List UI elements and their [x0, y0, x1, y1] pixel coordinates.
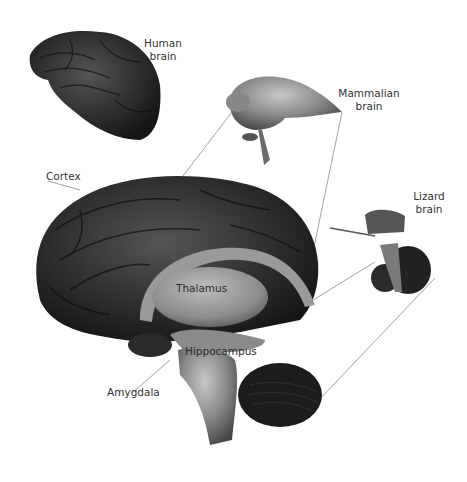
label-lizard-brain-line2: brain — [404, 203, 454, 216]
label-amygdala: Amygdala — [107, 386, 160, 399]
label-thalamus: Thalamus — [176, 282, 227, 295]
label-human-brain-line2: brain — [135, 50, 191, 63]
label-mammalian-brain-line1: Mammalian — [334, 87, 404, 100]
label-mammalian-brain-line2: brain — [334, 100, 404, 113]
label-lizard-brain-line1: Lizard — [404, 190, 454, 203]
label-hippocampus: Hippocampus — [185, 345, 257, 358]
large-brain-sagittal — [36, 176, 322, 445]
label-human-brain: Human brain — [135, 37, 191, 63]
label-human-brain-line1: Human — [135, 37, 191, 50]
label-lizard-brain: Lizard brain — [404, 190, 454, 216]
mammalian-brain — [226, 76, 342, 165]
diagram-canvas — [0, 0, 467, 482]
label-cortex: Cortex — [46, 170, 81, 183]
lizard-brain — [330, 210, 431, 294]
label-mammalian-brain: Mammalian brain — [334, 87, 404, 113]
